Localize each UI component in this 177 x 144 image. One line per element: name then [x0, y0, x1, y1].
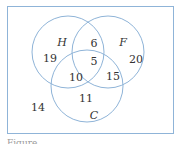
venn-diagram: H F C 19 6 20 5 10 15 11 14 Figure ...: [0, 0, 177, 144]
region-c-only: 11: [79, 92, 93, 105]
region-h-f-c: 5: [91, 55, 98, 68]
region-f-and-c: 15: [106, 70, 120, 83]
figure-caption: Figure ...: [7, 138, 49, 144]
region-h-only: 19: [43, 52, 57, 65]
set-h-label: H: [56, 36, 67, 49]
region-f-only: 20: [129, 53, 143, 66]
set-f-label: F: [118, 36, 127, 49]
region-h-and-f: 6: [91, 37, 98, 50]
region-h-and-c: 10: [69, 71, 83, 84]
set-c-label: C: [90, 109, 99, 122]
region-outside: 14: [31, 101, 45, 114]
set-c-circle: [51, 50, 123, 122]
